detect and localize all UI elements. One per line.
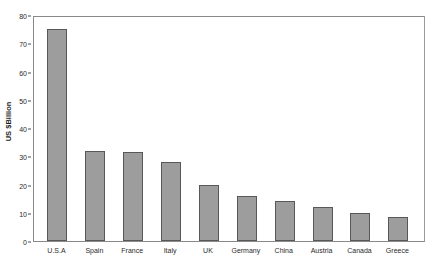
y-axis-tick-mark bbox=[28, 44, 31, 45]
chart-screenshot: US $Billion 01020304050607080 U.S.ASpain… bbox=[0, 0, 433, 277]
x-axis-tick-label: Spain bbox=[85, 247, 103, 254]
bar bbox=[388, 217, 408, 241]
bar bbox=[237, 196, 257, 241]
x-axis-tick-label: Canada bbox=[347, 247, 372, 254]
bar bbox=[85, 151, 105, 241]
plot-area bbox=[33, 16, 425, 242]
bar bbox=[199, 185, 219, 242]
y-axis-tick-mark bbox=[28, 213, 31, 214]
y-axis-tick-label: 80 bbox=[19, 13, 27, 20]
y-axis-tick-mark bbox=[28, 242, 31, 243]
bar bbox=[350, 213, 370, 241]
bar bbox=[123, 152, 143, 241]
y-axis-tick-mark bbox=[28, 72, 31, 73]
y-axis-tick-label: 50 bbox=[19, 97, 27, 104]
x-axis-tick-label: Greece bbox=[386, 247, 409, 254]
bar bbox=[313, 207, 333, 241]
x-axis-tick-label: France bbox=[121, 247, 143, 254]
x-axis-tick-labels: U.S.ASpainFranceItalyUKGermanyChinaAustr… bbox=[33, 244, 425, 260]
y-axis-tick-mark bbox=[28, 157, 31, 158]
y-axis-title-text: US $Billion bbox=[5, 101, 14, 141]
x-axis-tick-label: Italy bbox=[164, 247, 177, 254]
y-axis-tick-label: 60 bbox=[19, 69, 27, 76]
bar bbox=[47, 29, 67, 241]
y-axis-tick-label: 70 bbox=[19, 41, 27, 48]
bars-container bbox=[34, 17, 424, 241]
y-axis-tick-mark bbox=[28, 16, 31, 17]
y-axis-tick-labels: 01020304050607080 bbox=[14, 16, 31, 242]
y-axis-tick-label: 0 bbox=[23, 239, 27, 246]
y-axis-tick-label: 20 bbox=[19, 182, 27, 189]
x-axis-tick-label: U.S.A bbox=[47, 247, 65, 254]
x-axis-tick-label: Germany bbox=[231, 247, 260, 254]
x-axis-tick-label: UK bbox=[203, 247, 213, 254]
y-axis-tick-label: 30 bbox=[19, 154, 27, 161]
y-axis-tick-label: 10 bbox=[19, 210, 27, 217]
y-axis-tick-mark bbox=[28, 100, 31, 101]
y-axis-tick-label: 40 bbox=[19, 126, 27, 133]
bar bbox=[275, 201, 295, 241]
x-axis-tick-label: China bbox=[275, 247, 293, 254]
y-axis-tick-mark bbox=[28, 185, 31, 186]
y-axis-tick-mark bbox=[28, 129, 31, 130]
bar bbox=[161, 162, 181, 241]
x-axis-tick-label: Austria bbox=[311, 247, 333, 254]
